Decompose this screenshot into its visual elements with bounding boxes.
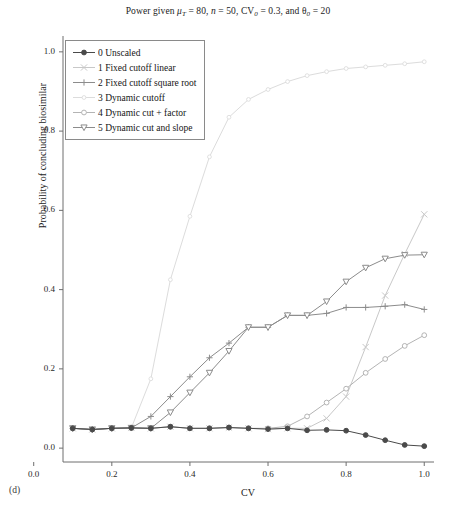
y-tick-label: 0.4 bbox=[25, 284, 55, 294]
x-tick-label: 1.0 bbox=[404, 469, 444, 479]
legend-item-0[interactable]: 0 Unscaled bbox=[71, 45, 197, 60]
legend-marker-dot-light-icon bbox=[71, 91, 97, 104]
y-tick-label: 0.6 bbox=[25, 204, 55, 214]
legend-marker-x-thin-icon bbox=[71, 61, 97, 74]
x-tick-label: 0.4 bbox=[170, 469, 210, 479]
legend-item-3[interactable]: 3 Dynamic cutoff bbox=[71, 90, 197, 105]
legend: 0 Unscaled1 Fixed cutoff linear2 Fixed c… bbox=[65, 40, 205, 140]
legend-label: 2 Fixed cutoff square root bbox=[97, 78, 197, 88]
x-tick-label: 0.8 bbox=[326, 469, 366, 479]
panel-label: (d) bbox=[9, 485, 20, 495]
legend-label: 4 Dynamic cut + factor bbox=[97, 108, 186, 118]
legend-item-2[interactable]: 2 Fixed cutoff square root bbox=[71, 75, 197, 90]
legend-label: 5 Dynamic cut and slope bbox=[97, 123, 192, 133]
legend-item-1[interactable]: 1 Fixed cutoff linear bbox=[71, 60, 197, 75]
y-tick-label: 1.0 bbox=[25, 46, 55, 56]
legend-label: 1 Fixed cutoff linear bbox=[97, 63, 176, 73]
y-axis-label: Probability of concluding biosimilar bbox=[37, 31, 48, 281]
y-tick-label: 0.2 bbox=[25, 363, 55, 373]
legend-label: 3 Dynamic cutoff bbox=[97, 93, 165, 103]
legend-marker-plus-icon bbox=[71, 76, 97, 89]
series-0 bbox=[70, 424, 426, 448]
series-5 bbox=[70, 252, 428, 432]
legend-marker-circle-filled-icon bbox=[71, 46, 97, 59]
legend-item-4[interactable]: 4 Dynamic cut + factor bbox=[71, 105, 197, 120]
series-1 bbox=[70, 211, 428, 432]
x-tick-label: 0.6 bbox=[248, 469, 288, 479]
legend-marker-triangle-down-icon bbox=[71, 121, 97, 134]
figure-panel: Power given μT = 80, n = 50, CV0 = 0.3, … bbox=[0, 0, 456, 512]
x-tick-label: 0.2 bbox=[92, 469, 132, 479]
series-4 bbox=[70, 333, 426, 432]
legend-marker-circle-open-icon bbox=[71, 106, 97, 119]
x-tick-label: 0.0 bbox=[14, 469, 54, 479]
legend-item-5[interactable]: 5 Dynamic cut and slope bbox=[71, 120, 197, 135]
legend-label: 0 Unscaled bbox=[97, 48, 140, 58]
y-tick-label: 0.0 bbox=[25, 442, 55, 452]
x-axis-label: CV bbox=[62, 487, 434, 498]
y-tick-label: 0.8 bbox=[25, 125, 55, 135]
